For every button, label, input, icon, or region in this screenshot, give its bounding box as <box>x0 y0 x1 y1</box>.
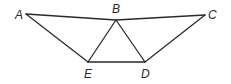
label-c: C <box>208 8 217 22</box>
diagram-svg: A B C E D <box>0 0 231 84</box>
segment-bc <box>116 15 205 20</box>
vertex-labels: A B C E D <box>14 2 217 81</box>
label-d: D <box>141 67 150 81</box>
segment-bd <box>116 20 145 62</box>
label-a: A <box>14 8 23 22</box>
segment-ae <box>26 14 88 62</box>
segments <box>26 14 205 62</box>
geometry-diagram: A B C E D <box>0 0 231 84</box>
segment-eb <box>88 20 116 62</box>
segment-dc <box>145 15 205 62</box>
label-e: E <box>84 67 93 81</box>
label-b: B <box>112 2 120 16</box>
segment-ab <box>26 14 116 20</box>
